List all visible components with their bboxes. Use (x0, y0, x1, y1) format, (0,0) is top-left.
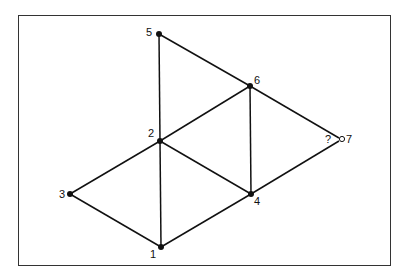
edge-5-2 (159, 34, 160, 141)
node-label-2: 2 (148, 128, 154, 139)
node-label-4: 4 (254, 196, 260, 207)
edge-5-6 (159, 34, 250, 86)
node-label-6: 6 (254, 75, 260, 86)
edge-6-4 (250, 86, 251, 194)
edge-1-4 (161, 194, 251, 247)
unknown-marker: ? (325, 134, 331, 145)
node-label-3: 3 (59, 189, 65, 200)
node-label-7: 7 (346, 134, 352, 145)
edge-6-2 (160, 86, 250, 141)
node-3-dot (67, 191, 73, 197)
edge-2-4 (160, 141, 251, 194)
node-2-dot (157, 138, 163, 144)
node-6-dot (247, 83, 253, 89)
edge-2-3 (70, 141, 160, 194)
node-7-open-dot (339, 136, 344, 141)
edge-2-1 (160, 141, 161, 247)
node-5-dot (156, 31, 162, 37)
node-label-5: 5 (146, 27, 152, 38)
edge-6-7 (250, 86, 339, 138)
edge-3-1 (70, 194, 161, 247)
node-1-dot (158, 244, 164, 250)
edge-4-7 (251, 141, 339, 194)
node-label-1: 1 (150, 249, 156, 260)
